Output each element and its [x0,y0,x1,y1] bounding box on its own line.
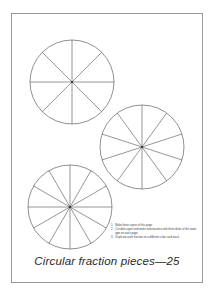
instruction-text: Duplicate each fraction on a different c… [115,236,199,239]
list-item: 1. Make three copies of this page. [111,224,199,227]
list-item: 2. Cut disks apart and make new masters … [111,228,199,235]
instruction-text: Cut disks apart and make new masters wit… [115,228,199,235]
instructions-list: 1. Make three copies of this page. 2. Cu… [111,224,199,240]
page-root: 1. Make three copies of this page. 2. Cu… [0,0,216,295]
list-item: 3. Duplicate each fraction on a differen… [111,236,199,239]
worksheet-sheet [11,13,203,283]
page-title: Circular fraction pieces—25 [11,255,203,267]
instruction-text: Make three copies of this page. [115,224,199,227]
